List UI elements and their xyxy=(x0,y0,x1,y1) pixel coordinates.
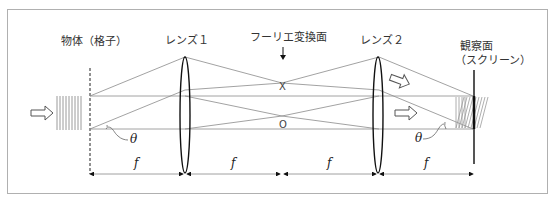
theta-leader-left xyxy=(106,125,128,140)
point-x-label: X xyxy=(279,81,286,92)
grating-icon xyxy=(57,96,81,130)
focal-length-label-4: f xyxy=(423,156,431,170)
screen-label-line2: （スクリーン） xyxy=(455,54,531,67)
interference-pattern-icon xyxy=(456,97,488,128)
object-label: 物体（格子） xyxy=(61,34,127,48)
fourier-plane-label: フーリエ変換面 xyxy=(250,30,327,44)
theta-leader-right xyxy=(423,122,446,139)
lens-2-label: レンズ２ xyxy=(360,33,404,47)
lens-1 xyxy=(180,57,190,173)
transmitted-light-arrow-icon xyxy=(395,106,417,120)
focal-length-label-2: f xyxy=(230,156,238,170)
screen-label-line1: 観察面 xyxy=(460,39,493,53)
optical-diagram: 物体（格子） レンズ１ フーリエ変換面 レンズ２ 観察面 （スクリーン） X O… xyxy=(0,0,555,201)
incoming-light-arrow-icon xyxy=(31,106,53,120)
point-o-label: O xyxy=(279,119,287,130)
theta-right-label: θ xyxy=(415,131,423,145)
focal-length-label-3: f xyxy=(326,156,334,170)
diffracted-light-arrow-icon xyxy=(388,71,412,91)
theta-left-label: θ xyxy=(130,132,138,146)
lens-2 xyxy=(373,57,383,173)
fourier-plane-arrow-icon xyxy=(280,47,286,60)
focal-length-label-1: f xyxy=(133,156,141,170)
lens-1-label: レンズ１ xyxy=(165,33,209,47)
